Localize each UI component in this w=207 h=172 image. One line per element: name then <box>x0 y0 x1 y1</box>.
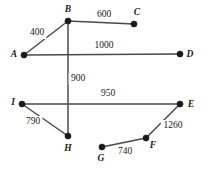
edge-weight-a-d: 1000 <box>95 40 114 50</box>
node-label-d: D <box>186 49 194 59</box>
node-d <box>177 51 183 57</box>
node-e <box>177 101 183 107</box>
edge-weight-i-e: 950 <box>101 88 116 98</box>
node-label-c: C <box>134 7 141 17</box>
edge-weight-b-c: 600 <box>97 9 112 19</box>
node-f <box>143 135 149 141</box>
edge-b-c <box>68 21 134 24</box>
node-label-g: G <box>98 153 105 163</box>
node-b <box>65 18 71 24</box>
node-label-e: E <box>187 99 194 109</box>
node-i <box>19 101 25 107</box>
node-label-f: F <box>149 140 157 150</box>
edge-a-d <box>24 54 180 55</box>
weight-labels-group: 40060010009009507907401260 <box>24 9 186 158</box>
node-h <box>65 133 71 139</box>
node-a <box>21 52 27 58</box>
graph-canvas: ABCDEFGHI 40060010009009507907401260 <box>0 0 207 172</box>
node-label-i: I <box>10 97 15 107</box>
graph-diagram: ABCDEFGHI 40060010009009507907401260 <box>0 0 207 172</box>
node-label-a: A <box>10 49 17 59</box>
edge-weight-f-e: 1260 <box>164 120 183 130</box>
edge-weight-a-b: 400 <box>30 27 45 37</box>
node-g <box>99 144 105 150</box>
edge-weight-b-h: 900 <box>71 73 86 83</box>
node-label-h: H <box>63 143 72 153</box>
node-label-b: B <box>64 4 71 14</box>
node-c <box>131 21 137 27</box>
edge-weight-i-h: 790 <box>26 116 41 126</box>
edge-weight-g-f: 740 <box>118 146 133 156</box>
